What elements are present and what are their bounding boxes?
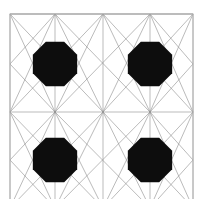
node-bottom-right xyxy=(128,138,172,182)
node-top-left xyxy=(33,42,77,86)
figure-container xyxy=(0,0,203,199)
node-bottom-left xyxy=(33,138,77,182)
lattice-diagram xyxy=(0,0,203,199)
node-top-right xyxy=(128,42,172,86)
figure-background xyxy=(0,0,203,199)
